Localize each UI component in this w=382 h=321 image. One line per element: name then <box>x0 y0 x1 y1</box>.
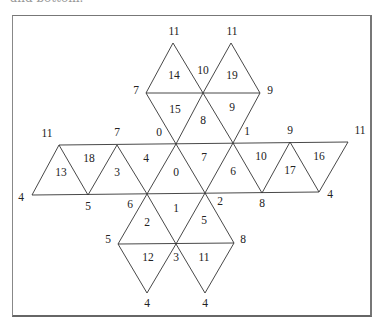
net-edge <box>32 192 319 195</box>
vertex-label: 10 <box>197 64 209 76</box>
vertex-label: 11 <box>354 124 365 136</box>
face-label: 3 <box>114 166 120 178</box>
face-label: 15 <box>169 103 181 115</box>
vertex-label: 7 <box>114 126 120 138</box>
icosahedron-net-diagram: 111171090111791145628458344 141915891813… <box>0 0 382 321</box>
face-label: 14 <box>168 69 180 81</box>
face-label: 17 <box>284 164 296 176</box>
vertex-label: 3 <box>173 251 179 263</box>
face-label: 1 <box>173 202 179 214</box>
face-label: 10 <box>255 150 267 162</box>
net-edge <box>118 243 234 244</box>
vertex-label: 1 <box>244 125 250 137</box>
vertex-label: 6 <box>127 198 133 210</box>
net-edge <box>147 194 176 244</box>
vertex-label: 7 <box>133 84 139 96</box>
face-label: 16 <box>313 150 325 162</box>
vertex-labels: 111171090111791145628458344 <box>18 25 366 309</box>
face-label: 5 <box>201 214 207 226</box>
vertex-label: 4 <box>144 297 150 309</box>
vertex-label: 11 <box>168 25 179 37</box>
face-label: 8 <box>200 114 206 126</box>
vertex-label: 0 <box>156 126 162 138</box>
face-label: 4 <box>143 152 149 164</box>
vertex-label: 4 <box>18 191 24 203</box>
vertex-label: 8 <box>259 197 265 209</box>
face-label: 0 <box>173 166 179 178</box>
face-label: 2 <box>144 216 150 228</box>
net-edge <box>205 143 233 193</box>
vertex-label: 11 <box>226 25 237 37</box>
vertex-label: 4 <box>327 188 333 200</box>
face-label: 13 <box>55 166 67 178</box>
face-label: 11 <box>198 251 209 263</box>
net-edges <box>32 43 348 293</box>
face-label: 9 <box>229 101 235 113</box>
face-label: 6 <box>230 165 236 177</box>
vertex-label: 11 <box>41 127 52 139</box>
face-labels: 141915891813340761017162151211 <box>55 69 325 263</box>
net-edge <box>176 93 203 144</box>
net-edge <box>59 142 348 145</box>
vertex-label: 5 <box>105 233 111 245</box>
face-label: 7 <box>201 151 207 163</box>
net-edge <box>147 144 176 194</box>
vertex-label: 8 <box>240 233 246 245</box>
face-label: 18 <box>83 152 95 164</box>
vertex-label: 2 <box>217 195 223 207</box>
vertex-label: 9 <box>267 84 273 96</box>
face-label: 19 <box>226 69 238 81</box>
vertex-label: 5 <box>85 200 91 212</box>
face-label: 12 <box>142 251 154 263</box>
vertex-label: 9 <box>287 124 293 136</box>
vertex-label: 4 <box>202 297 208 309</box>
